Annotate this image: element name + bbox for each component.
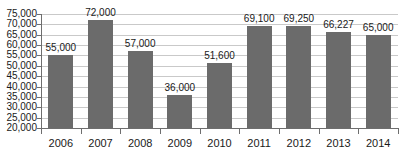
x-tick-mark [279, 129, 280, 134]
x-tick-label: 2009 [168, 137, 192, 149]
y-tick-mark [37, 45, 41, 46]
y-axis: 20,00025,00030,00035,00040,00045,00050,0… [0, 0, 40, 155]
y-tick-label: 20,000 [6, 123, 37, 133]
x-tick-mark [319, 129, 320, 134]
y-tick-label: 25,000 [6, 113, 37, 123]
x-tick-mark [41, 129, 42, 134]
x-tick-mark [200, 129, 201, 134]
bar-chart: 20,00025,00030,00035,00040,00045,00050,0… [0, 0, 404, 155]
y-tick-mark [37, 35, 41, 36]
x-axis-line [41, 128, 399, 129]
y-tick-mark [37, 66, 41, 67]
y-tick-label: 45,000 [6, 71, 37, 81]
bar [286, 26, 311, 128]
bar [326, 32, 351, 128]
x-tick-label: 2006 [49, 137, 73, 149]
y-tick-label: 55,000 [6, 50, 37, 60]
y-tick-label: 40,000 [6, 82, 37, 92]
bar-data-label: 55,000 [46, 43, 77, 53]
x-tick-mark [358, 129, 359, 134]
y-tick-label: 50,000 [6, 61, 37, 71]
x-tick-mark [239, 129, 240, 134]
bar [247, 26, 272, 128]
x-tick-label: 2012 [287, 137, 311, 149]
y-tick-mark [37, 24, 41, 25]
y-tick-mark [37, 87, 41, 88]
bar-data-label: 66,227 [323, 20, 354, 30]
bar-data-label: 36,000 [165, 83, 196, 93]
y-tick-label: 60,000 [6, 40, 37, 50]
x-tick-label: 2011 [247, 137, 271, 149]
x-tick-label: 2014 [366, 137, 390, 149]
y-tick-label: 75,000 [6, 9, 37, 19]
y-tick-mark [37, 76, 41, 77]
y-tick-mark [37, 55, 41, 56]
y-axis-line [41, 14, 42, 129]
bar-data-label: 51,600 [204, 51, 235, 61]
plot-area [41, 14, 398, 128]
x-tick-label: 2013 [326, 137, 350, 149]
y-tick-mark [37, 107, 41, 108]
x-tick-label: 2008 [128, 137, 152, 149]
y-tick-mark [37, 128, 41, 129]
x-tick-label: 2007 [88, 137, 112, 149]
bar [366, 35, 391, 128]
y-tick-mark [37, 118, 41, 119]
bar-data-label: 65,000 [363, 23, 394, 33]
y-tick-label: 30,000 [6, 102, 37, 112]
bar-data-label: 69,250 [284, 14, 315, 24]
y-tick-label: 35,000 [6, 92, 37, 102]
x-tick-mark [160, 129, 161, 134]
y-tick-label: 65,000 [6, 30, 37, 40]
bar [88, 20, 113, 128]
y-tick-mark [37, 14, 41, 15]
bar-data-label: 72,000 [85, 8, 116, 18]
x-tick-mark [120, 129, 121, 134]
x-tick-mark [398, 129, 399, 134]
bar-data-label: 69,100 [244, 14, 275, 24]
x-tick-mark [81, 129, 82, 134]
bar [128, 51, 153, 128]
y-tick-mark [37, 97, 41, 98]
y-tick-label: 70,000 [6, 19, 37, 29]
bar-data-label: 57,000 [125, 39, 156, 49]
bar [207, 63, 232, 128]
bar [167, 95, 192, 128]
x-tick-label: 2010 [207, 137, 231, 149]
bar [48, 55, 73, 128]
